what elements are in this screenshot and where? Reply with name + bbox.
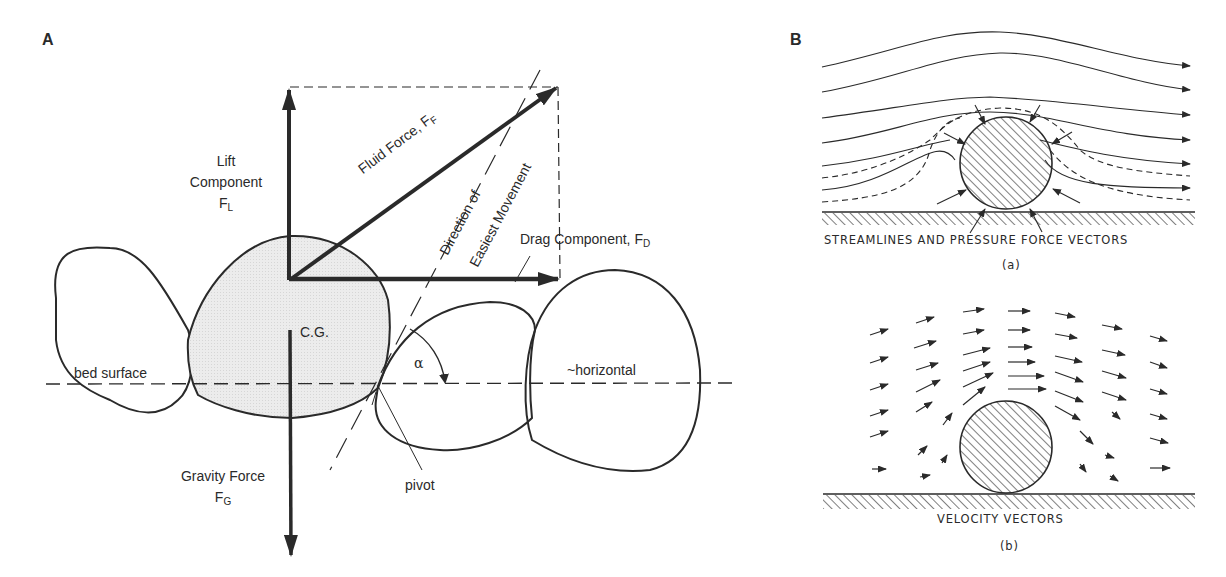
left-grain xyxy=(55,247,192,412)
lift-label: Lift Component FL xyxy=(176,151,276,218)
gravity-symbol: FG xyxy=(158,487,288,512)
particle-a xyxy=(960,117,1052,209)
panel-b-streamlines xyxy=(822,32,1195,233)
subfigure-b-tag: (b) xyxy=(1000,539,1019,553)
lift-symbol: FL xyxy=(176,193,276,218)
streamlines-caption: STREAMLINES AND PRESSURE FORCE VECTORS xyxy=(824,233,1128,247)
bed-surface-line xyxy=(46,383,735,384)
panel-b-label: B xyxy=(790,31,802,49)
alpha-label: α xyxy=(414,355,423,371)
subfigure-a-tag: (a) xyxy=(1002,258,1020,272)
lift-label-line2: Component xyxy=(176,172,276,193)
horizontal-label: ~horizontal xyxy=(567,362,636,378)
panel-b-velocity xyxy=(823,309,1195,509)
lift-label-line1: Lift xyxy=(176,151,276,172)
cg-label: C.G. xyxy=(300,324,329,340)
drag-label: Drag Component, FD xyxy=(520,231,650,249)
panel-a-label: A xyxy=(42,31,54,49)
pivot-label: pivot xyxy=(405,477,435,493)
gravity-label: Gravity Force FG xyxy=(158,466,288,512)
gravity-arrow xyxy=(290,330,291,555)
gravity-label-line1: Gravity Force xyxy=(158,466,288,487)
velocity-caption: VELOCITY VECTORS xyxy=(937,512,1064,526)
bed-surface-label: bed surface xyxy=(74,365,147,381)
particle-b xyxy=(960,401,1052,493)
